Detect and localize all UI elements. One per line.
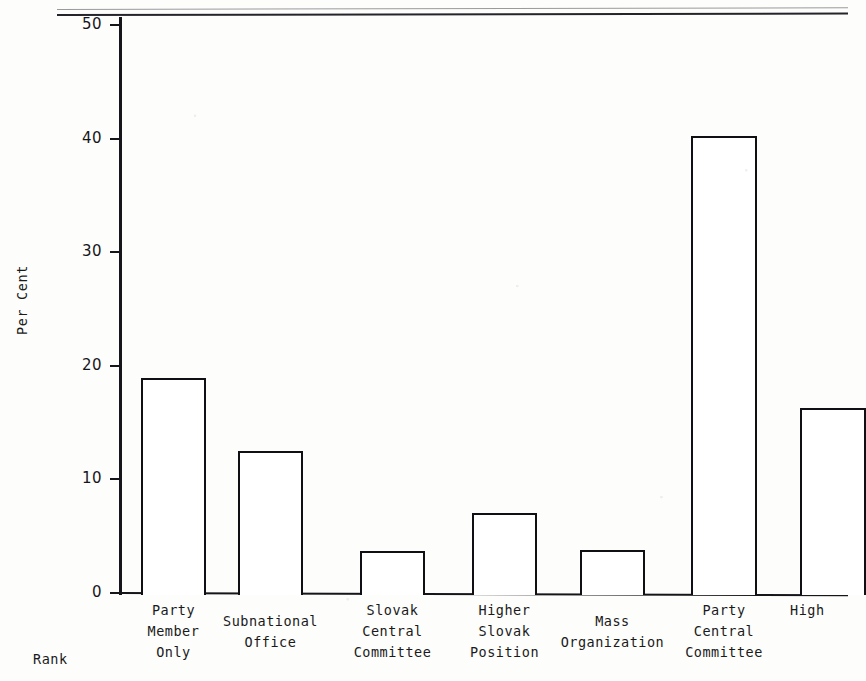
y-tick-label-20: 20 [58,356,102,374]
bar [472,513,537,595]
y-tick-0 [110,592,121,594]
y-tick-label-10: 10 [58,469,102,487]
y-tick-10 [110,478,121,480]
bar [580,550,645,595]
x-tick-label: Party Central Committee [639,600,809,663]
y-tick-50 [110,24,121,26]
bar [360,551,425,595]
y-tick-20 [110,365,121,367]
y-tick-label-0: 0 [58,583,102,601]
y-tick-30 [110,251,121,253]
y-tick-label-40: 40 [58,129,102,147]
x-tick-label: High [790,600,848,621]
x-axis-title: Rank [33,651,68,667]
page-rule-thin [57,7,848,10]
page-rule-thick [57,13,848,16]
y-axis-title: Per Cent [14,254,30,346]
y-tick-40 [110,138,121,140]
bar [800,408,866,595]
y-tick-label-30: 30 [58,242,102,260]
bar [238,451,303,595]
y-tick-label-50: 50 [58,15,102,33]
bar [691,136,757,595]
y-axis-line [119,17,122,595]
bar [141,378,206,595]
